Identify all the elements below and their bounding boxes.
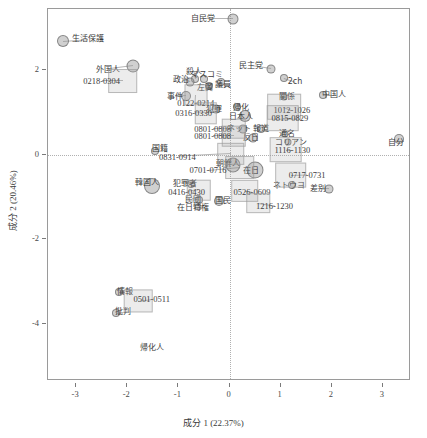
period-label: 0316-0330	[175, 108, 212, 117]
y-axis-tick-label: -4	[25, 318, 39, 328]
plot-area: 自民党生活保護外国人民主党2ch殺人マスコミ政治左翼議員中国人事件関係犯罪帰化日…	[47, 8, 410, 380]
term-label: 在日特権	[177, 204, 209, 212]
x-axis-tick-label: -2	[123, 389, 130, 399]
x-axis-tick-label: -3	[72, 389, 79, 399]
period-label: 1116-1130	[274, 146, 310, 155]
y-axis-tick	[42, 323, 46, 324]
term-label: 生活保護	[72, 35, 104, 43]
term-label: 2ch	[288, 78, 303, 86]
x-axis-tick-label: 1	[278, 389, 282, 399]
term-label: 差別	[310, 185, 326, 193]
x-axis-tick-label: 2	[329, 389, 333, 399]
y-axis-tick-label: -2	[25, 233, 39, 243]
x-axis-tick	[280, 383, 281, 387]
term-label: マスコミ	[191, 71, 223, 79]
y-axis-tick	[42, 69, 46, 70]
x-axis-tick	[229, 383, 230, 387]
term-circle-marker	[227, 13, 238, 24]
chart-canvas: 自民党生活保護外国人民主党2ch殺人マスコミ政治左翼議員中国人事件関係犯罪帰化日…	[0, 0, 427, 438]
y-axis-tick	[42, 238, 46, 239]
y-axis-tick	[42, 154, 46, 155]
period-label: 0717-0731	[289, 170, 326, 179]
period-label: 1216-1230	[256, 201, 293, 210]
term-label: 国民	[215, 197, 231, 205]
period-label: 0815-0829	[271, 114, 308, 123]
x-axis-tick	[126, 383, 127, 387]
term-label: 自民党	[191, 15, 215, 23]
term-label: 政治	[173, 76, 189, 84]
term-circle-marker	[57, 35, 69, 47]
x-axis-tick	[382, 383, 383, 387]
x-axis-tick	[75, 383, 76, 387]
x-axis-tick-label: 3	[380, 389, 384, 399]
period-label: 0416-0430	[168, 188, 205, 197]
period-label: 0801-0808	[194, 132, 231, 141]
x-axis-tick	[331, 383, 332, 387]
period-rect-marker	[225, 156, 255, 180]
term-label: 反日	[243, 134, 259, 142]
term-label: 自分	[388, 139, 404, 147]
y-axis-tick-label: 2	[25, 64, 39, 74]
period-label: 0831-0914	[159, 152, 196, 161]
y-axis-label: 成分 2 (20.46%)	[6, 111, 19, 291]
period-label: 0701-0716	[190, 166, 227, 175]
term-circle-marker	[280, 74, 288, 82]
y-axis-tick-label: 0	[25, 149, 39, 159]
period-label: 0501-0511	[134, 295, 171, 304]
x-axis-tick-label: -1	[174, 389, 181, 399]
term-label: 民主党	[239, 62, 263, 70]
x-axis-tick-label: 0	[226, 389, 230, 399]
term-circle-marker	[267, 65, 276, 74]
term-label: 中国人	[322, 91, 346, 99]
term-label: 帰化人	[140, 344, 164, 352]
x-axis-tick	[177, 383, 178, 387]
term-label: 議員	[215, 81, 231, 89]
x-axis-label: 成分 1 (22.37%)	[183, 416, 244, 429]
term-label: 韓国人	[135, 179, 159, 187]
period-label: 0218-0304	[83, 77, 120, 86]
